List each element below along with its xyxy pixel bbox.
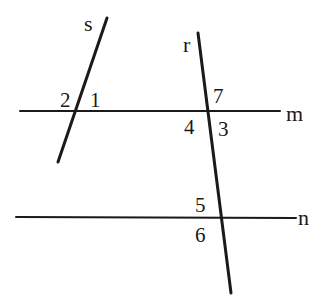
angle-label-6: 6 bbox=[195, 223, 206, 247]
line-label-s: s bbox=[84, 11, 93, 36]
line-label-n: n bbox=[298, 205, 309, 230]
angle-label-7: 7 bbox=[213, 84, 224, 108]
angle-label-2: 2 bbox=[60, 88, 71, 112]
line-label-r: r bbox=[183, 32, 191, 57]
line-r bbox=[198, 33, 231, 293]
angle-label-5: 5 bbox=[195, 193, 206, 217]
line-n bbox=[16, 217, 296, 218]
angle-label-4: 4 bbox=[184, 115, 195, 139]
angle-label-1: 1 bbox=[90, 88, 101, 112]
geometry-diagram: s r m n 1 2 7 4 3 5 6 bbox=[0, 0, 328, 303]
line-label-m: m bbox=[286, 101, 303, 126]
angle-label-3: 3 bbox=[218, 117, 229, 141]
